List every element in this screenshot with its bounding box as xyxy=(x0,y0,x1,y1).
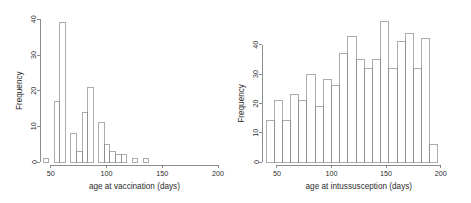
y-tick-label: 20 xyxy=(252,99,261,107)
histogram-bar xyxy=(121,155,127,162)
y-axis-title: Frequency xyxy=(16,70,25,110)
histogram-bar xyxy=(413,68,421,162)
histogram-bar xyxy=(430,144,438,162)
x-tick-label: 100 xyxy=(326,169,338,178)
histogram-bar xyxy=(110,151,116,162)
histogram-bar xyxy=(282,121,290,162)
x-axis-title: age at vaccination (days) xyxy=(89,182,180,191)
histogram-bar xyxy=(266,121,274,162)
histogram-bar xyxy=(372,59,380,162)
y-tick-label: 0 xyxy=(30,160,39,164)
y-tick-label: 0 xyxy=(252,160,261,164)
histogram-bar xyxy=(54,101,60,162)
histogram-bar xyxy=(364,68,372,162)
histogram-bar xyxy=(291,95,299,162)
histogram-bar xyxy=(60,23,66,162)
x-tick-label: 50 xyxy=(47,169,55,178)
x-axis-title: age at intussusception (days) xyxy=(306,182,413,191)
histogram-bar xyxy=(143,158,149,162)
histogram-bar xyxy=(88,87,94,162)
y-tick-label: 10 xyxy=(252,129,261,137)
y-axis-title: Frequency xyxy=(238,83,247,123)
x-axis: 50100150200age at intussusception (days) xyxy=(273,165,447,191)
histogram-bar xyxy=(132,158,138,162)
histogram-bar xyxy=(71,133,77,162)
histogram-bar xyxy=(397,42,405,162)
histogram-bar xyxy=(348,36,356,162)
histogram-bar xyxy=(43,158,49,162)
histogram-bar xyxy=(82,112,88,162)
histogram-bar xyxy=(76,151,82,162)
y-tick-label: 10 xyxy=(30,122,39,130)
x-tick-label: 200 xyxy=(435,169,447,178)
y-tick-label: 30 xyxy=(252,70,261,78)
x-tick-label: 200 xyxy=(212,169,224,178)
histogram-bar xyxy=(405,33,413,162)
x-tick-label: 150 xyxy=(156,169,168,178)
histogram-bar xyxy=(299,100,307,162)
histogram-bar xyxy=(323,80,331,162)
y-axis: 010203040Frequency xyxy=(16,15,41,164)
histogram-bar xyxy=(422,39,430,162)
y-tick-label: 40 xyxy=(252,41,261,49)
histogram-bars xyxy=(43,23,149,162)
histogram-bar xyxy=(381,21,389,162)
x-tick-label: 100 xyxy=(101,169,113,178)
y-axis: 010203040Frequency xyxy=(238,41,263,164)
histogram-bar xyxy=(340,54,348,162)
histogram-bar xyxy=(274,100,282,162)
histogram-figure: 50100150200age at vaccination (days)0102… xyxy=(0,0,471,203)
histogram-bar xyxy=(104,144,110,162)
histogram-bar xyxy=(99,123,105,162)
y-tick-label: 40 xyxy=(30,15,39,23)
x-tick-label: 50 xyxy=(273,169,281,178)
histogram-bar xyxy=(332,86,340,162)
histogram-bar xyxy=(315,106,323,162)
histogram-bar xyxy=(356,59,364,162)
panel-intussusception: 50100150200age at intussusception (days)… xyxy=(235,0,470,203)
histogram-bar xyxy=(389,68,397,162)
x-axis: 50100150200age at vaccination (days) xyxy=(47,165,224,191)
panel-vaccination: 50100150200age at vaccination (days)0102… xyxy=(0,0,235,203)
vaccination-histogram-plot: 50100150200age at vaccination (days)0102… xyxy=(0,0,235,203)
histogram-bars xyxy=(266,21,438,162)
histogram-bar xyxy=(307,74,315,162)
y-tick-label: 30 xyxy=(30,51,39,59)
x-tick-label: 150 xyxy=(380,169,392,178)
histogram-bar xyxy=(115,155,121,162)
y-tick-label: 20 xyxy=(30,87,39,95)
intussusception-histogram-plot: 50100150200age at intussusception (days)… xyxy=(235,0,471,203)
